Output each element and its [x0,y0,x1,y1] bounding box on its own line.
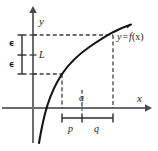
point-a-label: a [79,93,84,103]
curve-equation-label: y=f(x) [117,32,144,42]
pq-measure-bracket-group [62,114,113,123]
function-curve [39,25,131,144]
x-axis-label: x [137,93,142,104]
limit-diagram-figure: y x ϵ ϵ L a p q y=f(x) [0,0,158,151]
y-axis-label: y [39,16,44,27]
curve-equation-equals: = [122,31,128,42]
epsilon-upper-label: ϵ [9,40,14,48]
segment-q-label: q [94,124,99,134]
x-axis-arrowhead [145,104,152,112]
curve-equation-y: y [117,31,121,42]
limit-L-label: L [39,50,45,60]
vertical-guides-group [62,35,113,108]
curve-equation-arg: (x) [132,31,144,42]
y-axis-arrowhead [29,6,37,13]
horizontal-guides-group [33,35,113,74]
segment-p-label: p [68,124,73,134]
epsilon-bracket-group [18,35,27,74]
diagram-canvas [0,0,158,151]
epsilon-lower-label: ϵ [9,61,14,69]
